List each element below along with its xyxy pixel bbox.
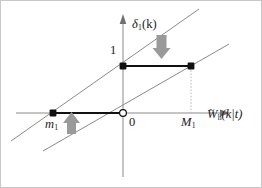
point-unit-marker (120, 63, 127, 70)
y-axis-label-arg: (k) (142, 17, 157, 31)
tilde-accent-icon: ~ (207, 105, 216, 115)
lower-bound-line (43, 44, 229, 151)
y-axis-label-base: δ (132, 17, 138, 31)
y-axis-label: δ1(k) (132, 18, 157, 31)
point-m1-marker (50, 110, 57, 117)
point-M1-marker (188, 63, 195, 70)
label-lower-breakpoint-base: m (45, 117, 54, 131)
x-axis-label: ~Wh(k|t) (207, 108, 242, 121)
label-origin-value: 0 (129, 116, 135, 129)
point-origin-marker (120, 110, 127, 117)
label-upper-breakpoint-subscript: 1 (191, 121, 195, 130)
label-upper-breakpoint-base: M (181, 115, 191, 129)
label-lower-breakpoint: m1 (45, 118, 58, 131)
y-axis-arrowhead-icon (120, 14, 127, 24)
figure-container: δ1(k) ~Wh(k|t) 1 0 m1 M1 (0, 0, 262, 188)
label-lower-breakpoint-subscript: 1 (54, 123, 58, 132)
label-upper-breakpoint: M1 (181, 116, 196, 129)
upper-bound-line (11, 9, 199, 141)
x-axis-label-arg: (k|t) (222, 107, 243, 121)
x-axis-label-accented-base: ~W (207, 108, 217, 121)
label-unit-value: 1 (110, 44, 116, 57)
down-arrow-icon (153, 35, 171, 59)
